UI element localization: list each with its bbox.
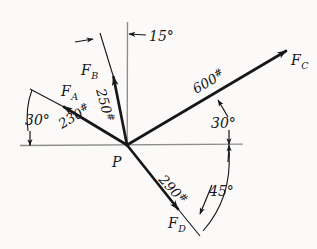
vector-fc (127, 51, 286, 145)
angle-arcs (27, 90, 229, 231)
leader-fb (75, 39, 93, 42)
label-fb: FB (80, 62, 98, 81)
fa-extension-line (30, 89, 64, 107)
horizontal-reference-line (20, 144, 243, 145)
label-fa: FA (60, 83, 78, 102)
label-fc-magnitude: 600# (190, 66, 228, 97)
label-fd: FD (167, 215, 186, 234)
fb-extension-line (100, 33, 114, 77)
label-origin-p: P (111, 154, 122, 170)
force-diagram: P FA 230# FB 250# FC 600# FD 290# 15° 30… (0, 0, 317, 249)
label-angle-15: 15° (149, 28, 174, 44)
leader-15 (129, 34, 146, 35)
angle-leaders (75, 34, 229, 214)
label-angle-45: 45° (208, 183, 234, 199)
label-angle-30-left: 30° (25, 112, 50, 128)
label-angle-30-right: 30° (211, 115, 236, 131)
label-fc: FC (290, 52, 309, 71)
label-fb-magnitude: 250# (93, 86, 118, 124)
text-labels: P FA 230# FB 250# FC 600# FD 290# 15° 30… (25, 28, 309, 234)
